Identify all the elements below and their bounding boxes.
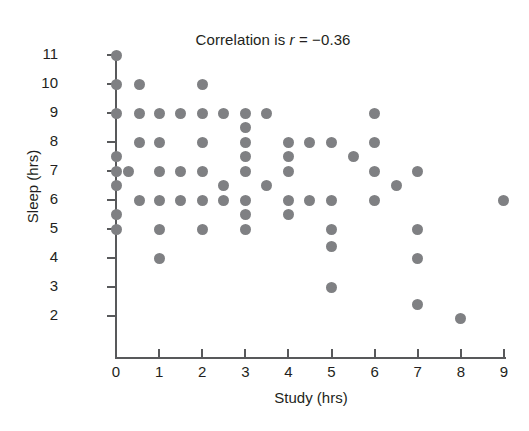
data-point — [326, 241, 337, 252]
x-tick-5 — [331, 349, 333, 358]
data-point — [154, 195, 165, 206]
y-tick-6 — [107, 199, 116, 201]
y-tick-label-9: 9 — [18, 103, 58, 120]
data-point — [134, 195, 145, 206]
x-tick-label-9: 9 — [489, 363, 519, 380]
y-tick-3 — [107, 286, 116, 288]
data-point — [218, 195, 229, 206]
data-point — [154, 137, 165, 148]
data-point — [498, 195, 509, 206]
data-point — [154, 253, 165, 264]
x-axis-line — [115, 357, 506, 359]
x-tick-label-0: 0 — [101, 363, 131, 380]
data-point — [304, 195, 315, 206]
data-point — [111, 108, 122, 119]
data-point — [326, 137, 337, 148]
y-tick-4 — [107, 257, 116, 259]
data-point — [134, 79, 145, 90]
data-point — [412, 299, 423, 310]
data-point — [412, 224, 423, 235]
scatter-plot-figure: Correlation is r = −0.36 234567891011 01… — [0, 0, 529, 431]
data-point — [240, 108, 251, 119]
x-tick-2 — [201, 349, 203, 358]
x-tick-label-4: 4 — [273, 363, 303, 380]
data-point — [283, 209, 294, 220]
data-point — [391, 180, 402, 191]
data-point — [218, 108, 229, 119]
data-point — [134, 108, 145, 119]
data-point — [240, 151, 251, 162]
data-point — [197, 79, 208, 90]
data-point — [197, 166, 208, 177]
data-point — [240, 137, 251, 148]
x-tick-6 — [374, 349, 376, 358]
data-point — [304, 137, 315, 148]
y-axis-line — [115, 52, 117, 359]
data-point — [197, 108, 208, 119]
y-tick-8 — [107, 141, 116, 143]
x-tick-1 — [158, 349, 160, 358]
data-point — [326, 195, 337, 206]
data-point — [111, 166, 122, 177]
x-tick-label-2: 2 — [187, 363, 217, 380]
y-tick-2 — [107, 315, 116, 317]
data-point — [369, 137, 380, 148]
data-point — [218, 180, 229, 191]
data-point — [369, 195, 380, 206]
data-point — [154, 166, 165, 177]
data-point — [240, 122, 251, 133]
data-point — [111, 180, 122, 191]
y-axis-title: Sleep (hrs) — [24, 127, 41, 247]
x-tick-4 — [287, 349, 289, 358]
y-tick-label-3: 3 — [18, 277, 58, 294]
data-point — [369, 166, 380, 177]
data-point — [111, 50, 122, 61]
data-point — [111, 224, 122, 235]
data-point — [197, 224, 208, 235]
data-point — [348, 151, 359, 162]
data-point — [240, 224, 251, 235]
y-tick-label-2: 2 — [18, 306, 58, 323]
x-tick-label-7: 7 — [403, 363, 433, 380]
data-point — [369, 108, 380, 119]
x-tick-8 — [460, 349, 462, 358]
data-point — [455, 313, 466, 324]
data-point — [283, 151, 294, 162]
data-point — [111, 209, 122, 220]
x-tick-7 — [417, 349, 419, 358]
data-point — [283, 137, 294, 148]
data-point — [197, 195, 208, 206]
x-tick-label-8: 8 — [446, 363, 476, 380]
data-point — [240, 209, 251, 220]
data-point — [261, 108, 272, 119]
x-tick-label-5: 5 — [317, 363, 347, 380]
y-tick-label-11: 11 — [18, 45, 58, 62]
data-point — [326, 282, 337, 293]
x-tick-0 — [115, 349, 117, 358]
data-point — [261, 180, 272, 191]
data-point — [240, 166, 251, 177]
data-point — [197, 137, 208, 148]
data-point — [326, 224, 337, 235]
data-point — [111, 151, 122, 162]
plot-area: 234567891011 0123456789 — [0, 0, 529, 431]
x-tick-9 — [503, 349, 505, 358]
y-tick-label-4: 4 — [18, 248, 58, 265]
y-tick-label-10: 10 — [18, 74, 58, 91]
data-point — [134, 137, 145, 148]
data-point — [123, 166, 134, 177]
data-point — [154, 108, 165, 119]
x-tick-3 — [244, 349, 246, 358]
x-axis-title: Study (hrs) — [116, 389, 506, 406]
data-point — [175, 195, 186, 206]
data-point — [283, 166, 294, 177]
data-point — [111, 79, 122, 90]
data-point — [412, 166, 423, 177]
x-tick-label-6: 6 — [360, 363, 390, 380]
data-point — [240, 195, 251, 206]
x-tick-label-1: 1 — [144, 363, 174, 380]
data-point — [412, 253, 423, 264]
data-point — [283, 195, 294, 206]
x-tick-label-3: 3 — [230, 363, 260, 380]
data-point — [154, 224, 165, 235]
